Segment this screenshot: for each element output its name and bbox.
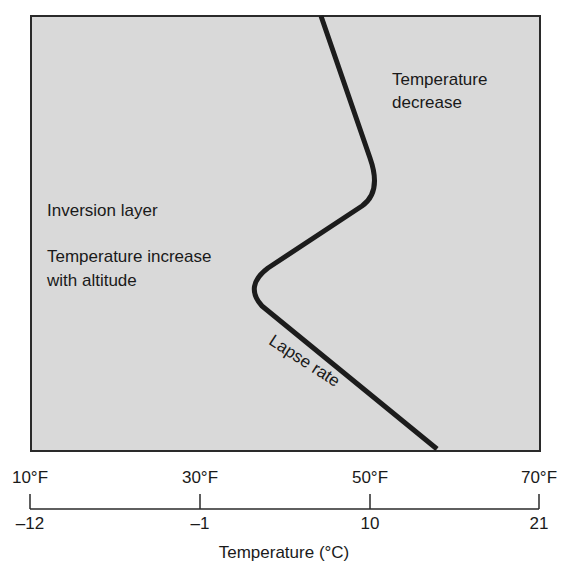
tick-c-21: 21 [530, 514, 549, 534]
tick-f-50: 50°F [352, 468, 388, 488]
temp-decrease-label-line2: decrease [392, 92, 462, 114]
tick-c-minus1: –1 [191, 514, 210, 534]
inversion-layer-label: Inversion layer [47, 200, 158, 222]
temp-decrease-label-line1: Temperature [392, 69, 487, 91]
temp-increase-label-line1: Temperature increase [47, 246, 211, 268]
tick-f-10: 10°F [12, 468, 48, 488]
tick-f-70: 70°F [521, 468, 557, 488]
tick-c-minus12: –12 [16, 514, 44, 534]
x-axis-title: Temperature (°C) [219, 543, 350, 563]
tick-f-30: 30°F [182, 468, 218, 488]
temp-increase-label-line2: with altitude [47, 270, 137, 292]
tick-c-10: 10 [361, 514, 380, 534]
